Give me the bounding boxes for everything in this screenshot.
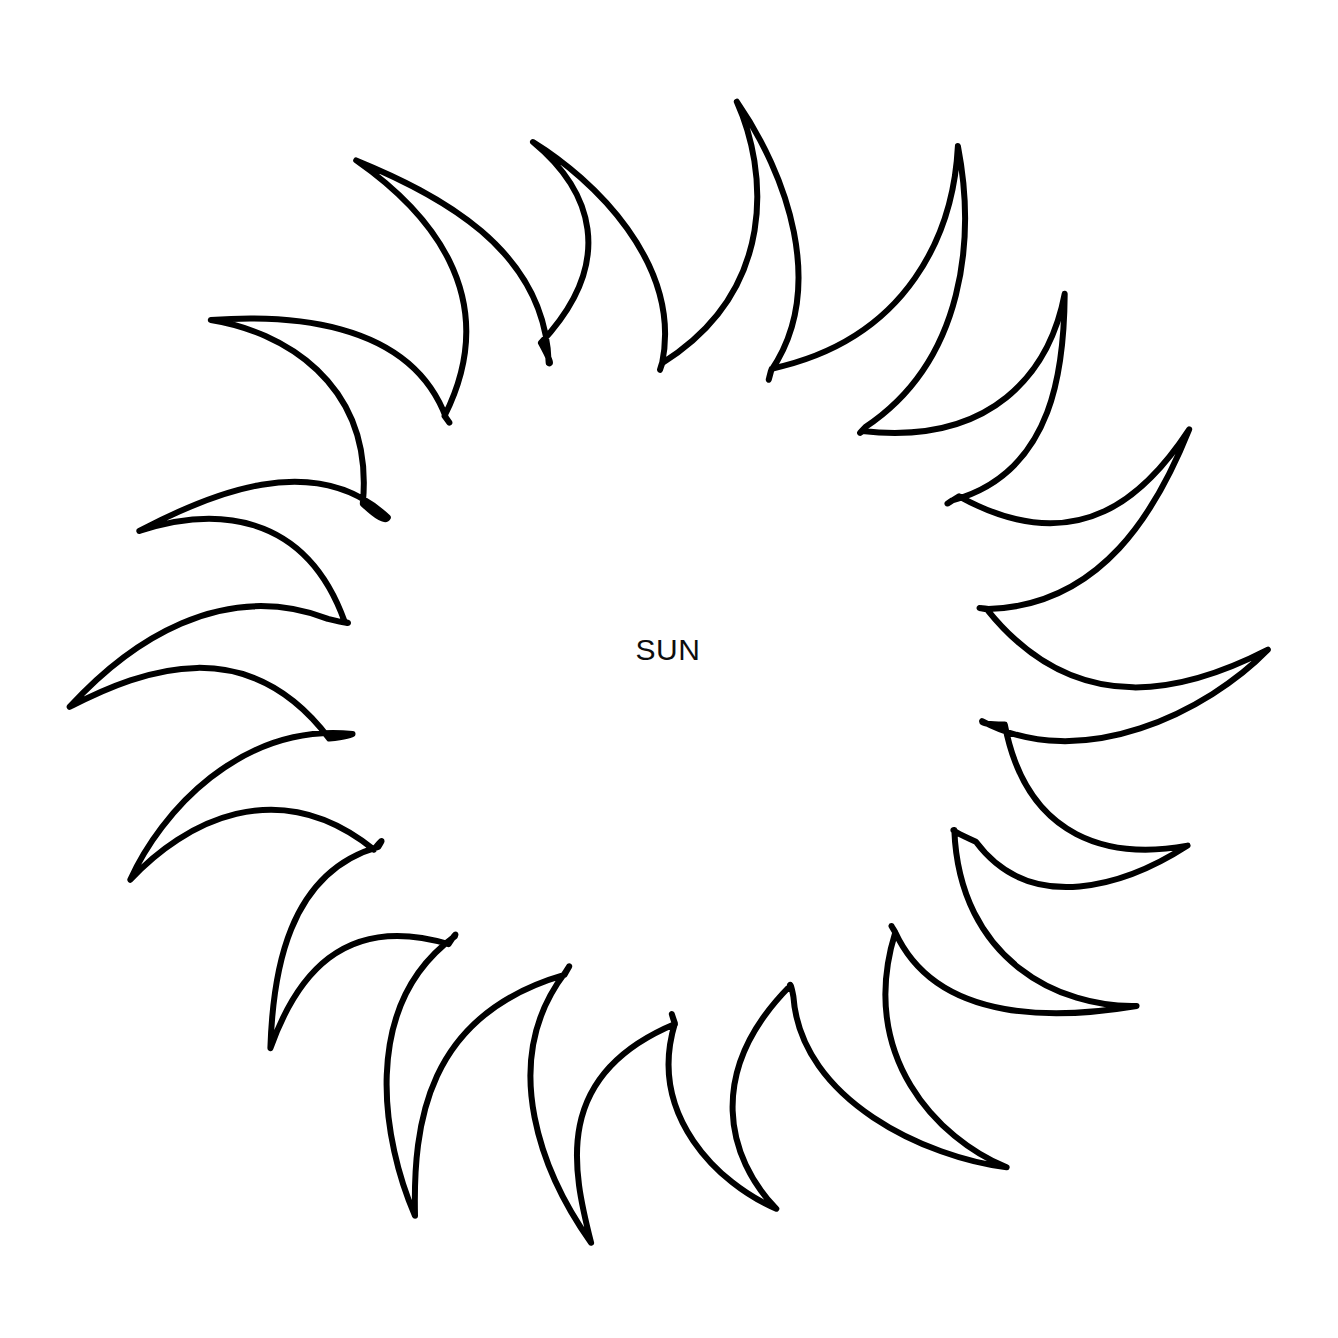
sun-drawing: SUN — [0, 0, 1338, 1338]
center-label-sun: SUN — [636, 633, 701, 666]
drawing-canvas: SUN — [0, 0, 1338, 1338]
